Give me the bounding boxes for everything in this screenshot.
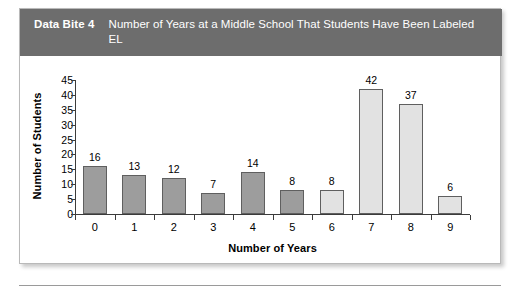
y-axis-tick-mark — [71, 199, 76, 200]
chart-plot-area: Number of Students 051015202530354045 16… — [20, 56, 502, 264]
x-axis-tick-label: 2 — [154, 221, 194, 233]
bar — [122, 175, 146, 214]
x-axis-tick-mark — [431, 215, 432, 220]
x-axis-tick-mark — [391, 215, 392, 220]
x-axis-title: Number of Years — [75, 242, 470, 254]
y-axis-tick-mark — [71, 140, 76, 141]
y-axis-tick-mark — [71, 80, 76, 81]
bar-value-label: 8 — [272, 176, 312, 187]
y-axis-tick-mark — [71, 95, 76, 96]
y-axis-tick-mark — [71, 125, 76, 126]
y-axis-tick-mark — [71, 184, 76, 185]
bar-value-label: 7 — [193, 179, 233, 190]
figure-title: Number of Years at a Middle School That … — [109, 17, 488, 46]
x-axis-tick-mark — [75, 215, 76, 220]
bar — [359, 89, 383, 214]
bar — [438, 196, 462, 214]
bar-value-label: 14 — [233, 158, 273, 169]
bar-value-label: 37 — [391, 90, 431, 101]
x-axis-tick-label: 0 — [75, 221, 115, 233]
x-axis-tick-mark — [194, 215, 195, 220]
bottom-divider — [19, 285, 501, 286]
bar — [241, 172, 265, 214]
x-axis-tick-mark — [154, 215, 155, 220]
figure-card: Data Bite 4 Number of Years at a Middle … — [19, 8, 501, 264]
bar-value-label: 6 — [430, 182, 470, 193]
x-axis-tick-label: 3 — [193, 221, 233, 233]
bar-value-label: 16 — [75, 152, 115, 163]
x-axis-tick-mark — [470, 215, 471, 220]
x-axis-tick-label: 4 — [233, 221, 273, 233]
x-axis-tick-label: 7 — [351, 221, 391, 233]
data-bite-label: Data Bite 4 — [34, 17, 95, 31]
x-axis-tick-mark — [233, 215, 234, 220]
bar — [280, 190, 304, 214]
x-axis-tick-label: 9 — [430, 221, 470, 233]
x-axis-tick-label: 5 — [272, 221, 312, 233]
y-axis-tick-mark — [71, 110, 76, 111]
bar — [162, 178, 186, 214]
figure-header: Data Bite 4 Number of Years at a Middle … — [20, 9, 502, 56]
y-axis-tick-mark — [71, 154, 76, 155]
bar-value-label: 13 — [114, 161, 154, 172]
y-axis-tick-mark — [71, 169, 76, 170]
x-axis-tick-mark — [115, 215, 116, 220]
x-axis-tick-mark — [312, 215, 313, 220]
bar — [201, 193, 225, 214]
bar — [320, 190, 344, 214]
bar-value-label: 8 — [312, 176, 352, 187]
x-axis-tick-mark — [273, 215, 274, 220]
x-axis-tick-label: 1 — [114, 221, 154, 233]
bar — [83, 166, 107, 214]
bar — [399, 104, 423, 214]
bar-value-label: 42 — [351, 75, 391, 86]
x-axis-tick-label: 6 — [312, 221, 352, 233]
bar-value-label: 12 — [154, 164, 194, 175]
x-axis-tick-mark — [352, 215, 353, 220]
x-axis-tick-label: 8 — [391, 221, 431, 233]
